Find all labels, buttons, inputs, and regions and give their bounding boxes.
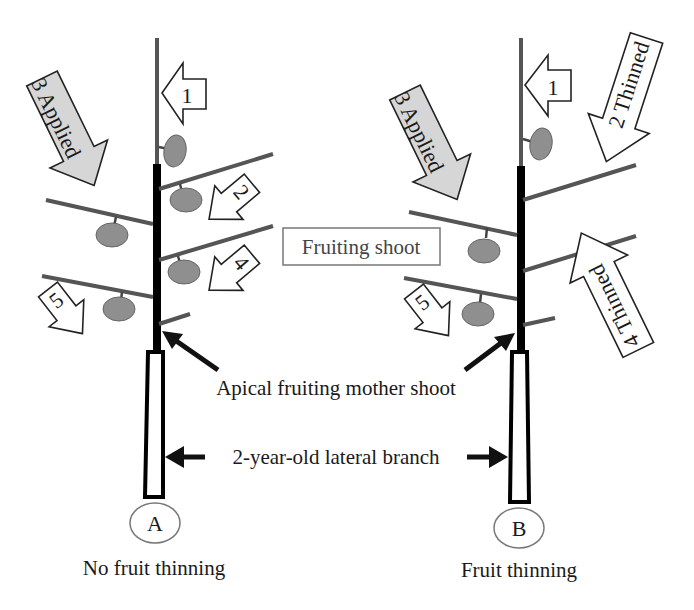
- panel-b-arrow-1: 1: [525, 55, 571, 116]
- panel-b-letter: B: [512, 516, 527, 541]
- panel-a-fruit-1: [159, 133, 189, 168]
- panel-a-fruit-5: [103, 292, 135, 321]
- panel-a-lateral-branch: [145, 352, 163, 497]
- panel-b-fruit-3: [468, 228, 500, 263]
- panel-b-arrow-2-thinned: 2 Thinned: [576, 28, 677, 171]
- panel-a: 1 3 Applied 2 4 5 A No fruit thinning: [13, 38, 273, 580]
- lateral-branch-label: 2-year-old lateral branch: [232, 445, 440, 469]
- panel-a-arrow-2: 2: [195, 166, 266, 236]
- panel-b-fruit-5: [462, 294, 494, 326]
- panel-a-arrow-3-applied: 3 Applied: [13, 63, 123, 199]
- panel-b-lateral-branch: [510, 352, 529, 502]
- panel-a-letter: A: [147, 511, 163, 536]
- panel-a-fruit-3: [96, 217, 128, 247]
- panel-a-caption: No fruit thinning: [83, 556, 226, 580]
- panel-a-shoot-6: [159, 314, 190, 324]
- panel-b: 1 3 Applied 2 Thinned 4 Thinned 5 B Frui…: [376, 28, 677, 582]
- apical-fruiting-mother-shoot-label: Apical fruiting mother shoot: [216, 376, 456, 400]
- fruit-thinning-diagram: 1 3 Applied 2 4 5 A No fruit thinning: [0, 0, 694, 610]
- panel-b-arrow-1-label: 1: [548, 75, 559, 100]
- panel-a-fruit-2: [170, 184, 202, 212]
- panel-b-shoot-2: [523, 165, 636, 200]
- fruiting-shoot-text: Fruiting shoot: [302, 235, 421, 259]
- pointer-left-apical: [172, 338, 218, 370]
- panel-a-arrow-1-label: 1: [182, 83, 193, 108]
- pointer-right-lateral-head: [489, 446, 508, 468]
- panel-b-fruit-1: [523, 126, 555, 161]
- apical-mother-shoot-pointers: [162, 331, 515, 370]
- panel-b-arrow-3-applied: 3 Applied: [376, 77, 486, 213]
- panel-a-shoot-3: [46, 200, 153, 224]
- panel-b-shoot-6: [523, 318, 555, 325]
- panel-b-arrow-4-thinned: 4 Thinned: [553, 219, 668, 364]
- fruiting-shoot-label: Fruiting shoot: [283, 228, 440, 265]
- panel-a-shoot-4: [159, 226, 273, 260]
- pointer-right-apical: [465, 340, 505, 370]
- panel-a-arrow-1: 1: [162, 63, 206, 124]
- panel-a-fruit-4: [168, 256, 200, 284]
- pointer-left-lateral-head: [165, 446, 184, 468]
- panel-b-caption: Fruit thinning: [461, 558, 578, 582]
